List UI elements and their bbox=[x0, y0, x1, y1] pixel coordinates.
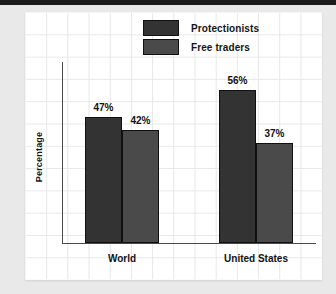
bar-value-world-protectionists: 47% bbox=[85, 102, 122, 113]
chart-figure: Protectionists Free traders Percentage 4… bbox=[0, 0, 336, 294]
x-axis-line bbox=[62, 243, 316, 244]
legend-label-protectionists: Protectionists bbox=[191, 23, 259, 34]
bar-value-world-free-traders: 42% bbox=[122, 115, 159, 126]
legend-swatch-protectionists bbox=[143, 20, 179, 36]
legend-item-free-traders[interactable]: Free traders bbox=[143, 40, 313, 54]
bar-value-united-states-protectionists: 56% bbox=[219, 75, 256, 86]
legend-swatch-free-traders bbox=[143, 39, 179, 55]
bar-united-states-protectionists[interactable] bbox=[219, 90, 256, 243]
legend-label-free-traders: Free traders bbox=[191, 42, 250, 53]
bar-world-protectionists[interactable] bbox=[85, 117, 122, 243]
bar-world-free-traders[interactable] bbox=[122, 130, 159, 243]
y-axis-line bbox=[62, 62, 63, 244]
bar-value-united-states-free-traders: 37% bbox=[256, 128, 293, 139]
legend-item-protectionists[interactable]: Protectionists bbox=[143, 21, 313, 35]
chart-legend: Protectionists Free traders bbox=[143, 21, 313, 59]
y-axis-label: Percentage bbox=[34, 112, 44, 202]
x-axis-category-united-states: United States bbox=[219, 253, 293, 264]
bar-united-states-free-traders[interactable] bbox=[256, 143, 293, 243]
x-axis-category-world: World bbox=[85, 253, 159, 264]
